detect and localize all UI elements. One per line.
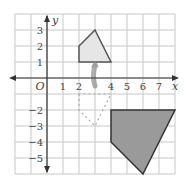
x-axis-label: x xyxy=(172,80,179,93)
coordinate-grid-diagram: 124567321−2−3−4−5Oxy xyxy=(0,0,184,187)
origin-label: O xyxy=(35,80,44,93)
x-tick-label: 1 xyxy=(60,81,66,92)
transformation-arrow-icon xyxy=(94,65,96,86)
grid-svg: 124567321−2−3−4−5Oxy xyxy=(0,0,184,187)
y-axis-down-arrow-icon xyxy=(44,166,50,173)
y-tick-label: 3 xyxy=(37,25,43,36)
x-tick-label: 7 xyxy=(156,81,162,92)
y-tick-label: 1 xyxy=(37,57,43,68)
y-tick-label: −4 xyxy=(28,137,43,148)
y-axis-arrow-icon xyxy=(44,15,50,22)
x-tick-label: 5 xyxy=(124,81,130,92)
x-tick-label: 4 xyxy=(108,81,114,92)
y-tick-label: −2 xyxy=(28,105,43,116)
y-tick-label: −3 xyxy=(28,121,43,132)
x-tick-label: 2 xyxy=(76,81,82,92)
x-axis-left-arrow-icon xyxy=(9,75,16,81)
x-tick-label: 6 xyxy=(140,81,146,92)
y-tick-label: −5 xyxy=(28,153,43,164)
y-tick-label: 2 xyxy=(37,41,43,52)
y-axis-label: y xyxy=(51,14,59,27)
